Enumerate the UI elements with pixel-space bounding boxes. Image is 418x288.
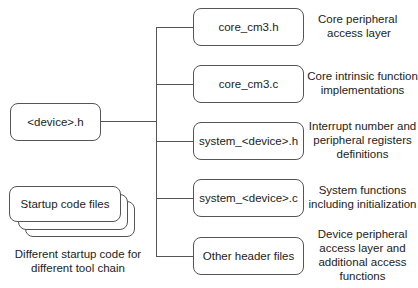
startup-code-files-box: Startup code files xyxy=(9,186,121,222)
connector-device-to-trunk xyxy=(101,121,156,122)
description-line: Device peripheral xyxy=(307,227,418,241)
description-line: peripheral registers xyxy=(307,133,418,147)
file-label: system_<device>.c xyxy=(199,192,297,204)
description-line: Core peripheral xyxy=(318,12,418,26)
file-box-system-device-h: system_<device>.h xyxy=(193,122,304,160)
description-line: functions xyxy=(307,269,418,283)
description-line: definitions xyxy=(307,147,418,161)
device-header-label: <device>.h xyxy=(27,116,83,128)
connector-trunk xyxy=(156,27,157,257)
file-box-core-cm3-h: core_cm3.h xyxy=(193,8,304,46)
file-box-core-cm3-c: core_cm3.c xyxy=(193,65,304,103)
description-line: Interrupt number and xyxy=(307,119,418,133)
file-box-system-device-c: system_<device>.c xyxy=(193,179,304,217)
connector-branch-4 xyxy=(156,198,193,199)
device-header-box: <device>.h xyxy=(10,103,101,141)
file-box-other-headers: Other header files xyxy=(193,237,304,275)
caption-line: Different startup code for xyxy=(8,247,148,261)
description-core-cm3-c: Core intrinsic function implementations xyxy=(307,69,418,97)
description-line: including initialization xyxy=(307,197,418,211)
description-core-cm3-h: Core peripheral access layer xyxy=(310,12,418,40)
caption-line: different tool chain xyxy=(8,261,148,275)
description-line: implementations xyxy=(307,83,418,97)
startup-caption: Different startup code for different too… xyxy=(8,247,148,275)
file-label: core_cm3.c xyxy=(219,78,278,90)
connector-branch-1 xyxy=(156,27,193,28)
description-system-device-c: System functions including initializatio… xyxy=(307,183,418,211)
file-label: system_<device>.h xyxy=(199,135,298,147)
description-line: Core intrinsic function xyxy=(307,69,418,83)
connector-branch-5 xyxy=(156,256,193,257)
file-label: Other header files xyxy=(203,250,294,262)
startup-label: Startup code files xyxy=(21,198,110,210)
description-other-headers: Device peripheral access layer and addit… xyxy=(307,227,418,283)
connector-branch-3 xyxy=(156,141,193,142)
description-line: additional access xyxy=(307,255,418,269)
description-line: access layer and xyxy=(307,241,418,255)
description-line: access layer xyxy=(318,26,418,40)
description-line: System functions xyxy=(307,183,418,197)
connector-branch-2 xyxy=(156,84,193,85)
description-system-device-h: Interrupt number and peripheral register… xyxy=(307,119,418,161)
file-label: core_cm3.h xyxy=(218,21,278,33)
